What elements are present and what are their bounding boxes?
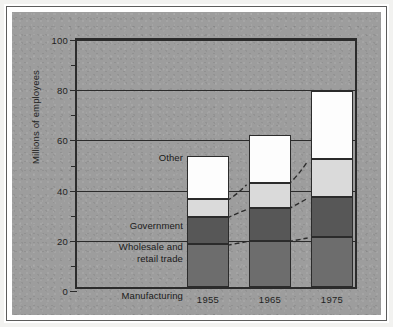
y-tick-30 — [71, 216, 77, 217]
annotation-wholesale-retail-trade: Wholesale and retail trade — [73, 241, 183, 265]
bar-1965-segment-government[interactable] — [249, 183, 291, 208]
y-tick-10 — [71, 266, 77, 267]
bar-1955-segment-wholesale[interactable] — [187, 217, 229, 245]
annotation-manufacturing: Manufacturing — [73, 290, 183, 302]
y-tick-40 — [70, 191, 77, 192]
bar-1955-segment-manufacturing[interactable] — [187, 244, 229, 287]
y-tick-90 — [71, 65, 77, 66]
y-tick-70 — [71, 115, 77, 116]
bar-1975-segment-other[interactable] — [311, 91, 353, 159]
x-axis-label-1965: 1965 — [259, 294, 281, 305]
bar-1975-segment-government[interactable] — [311, 159, 353, 197]
y-axis-label-100: 100 — [52, 35, 68, 46]
y-axis-label-20: 20 — [57, 235, 68, 246]
annotation-other: Other — [73, 152, 183, 164]
y-axis-title: Millions of employees — [30, 70, 41, 164]
bar-1955-segment-other[interactable] — [187, 156, 229, 199]
y-axis-label-0: 0 — [63, 286, 68, 297]
bar-1975-segment-manufacturing[interactable] — [311, 237, 353, 287]
bar-1975-segment-wholesale[interactable] — [311, 197, 353, 237]
bar-1965-segment-other[interactable] — [249, 135, 291, 183]
y-tick-50 — [71, 166, 77, 167]
bar-1965-segment-manufacturing[interactable] — [249, 241, 291, 287]
chart-canvas: Millions of employees 100 80 60 40 20 — [12, 12, 381, 315]
gridline-100 — [77, 40, 355, 41]
y-axis-label-80: 80 — [57, 85, 68, 96]
y-tick-80 — [70, 90, 77, 91]
x-axis-label-1955: 1955 — [197, 294, 219, 305]
annotation-government: Government — [73, 220, 183, 232]
bar-1955-segment-government[interactable] — [187, 199, 229, 217]
y-axis-label-40: 40 — [57, 185, 68, 196]
bar-1965-segment-wholesale[interactable] — [249, 208, 291, 241]
figure-page: Millions of employees 100 80 60 40 20 — [0, 0, 393, 327]
y-tick-100 — [70, 40, 77, 41]
x-axis-label-1975: 1975 — [321, 294, 343, 305]
plot-area: 100 80 60 40 20 0 Other Government Whole… — [75, 38, 357, 289]
y-tick-60 — [70, 140, 77, 141]
y-axis-label-60: 60 — [57, 135, 68, 146]
